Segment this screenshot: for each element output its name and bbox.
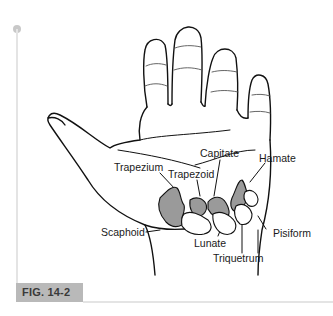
label-capitate: Capitate bbox=[200, 147, 239, 159]
label-lunate: Lunate bbox=[194, 237, 226, 249]
label-scaphoid: Scaphoid bbox=[101, 226, 145, 238]
lunate-bone bbox=[213, 212, 236, 234]
ring-finger bbox=[205, 49, 238, 110]
label-hamate: Hamate bbox=[259, 152, 296, 164]
label-trapezium: Trapezium bbox=[114, 161, 163, 173]
thumb bbox=[48, 107, 155, 275]
middle-finger bbox=[172, 27, 202, 104]
index-finger bbox=[144, 39, 168, 107]
scaphoid-bone bbox=[182, 212, 211, 234]
label-triquetrum: Triquetrum bbox=[213, 252, 263, 264]
little-finger bbox=[248, 75, 271, 140]
triquetrum-bone bbox=[235, 204, 252, 224]
pisiform-bone bbox=[244, 190, 258, 206]
label-pisiform: Pisiform bbox=[273, 227, 311, 239]
label-trapezoid: Trapezoid bbox=[168, 168, 214, 180]
trapezium-bone bbox=[159, 187, 185, 226]
figure-caption: FIG. 14-2 bbox=[16, 283, 83, 302]
